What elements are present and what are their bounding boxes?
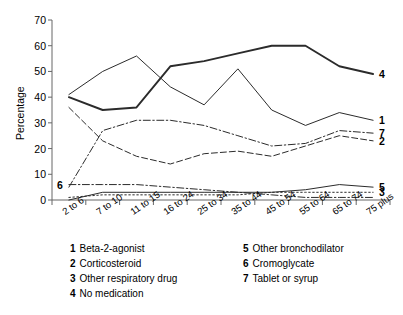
y-tick-label: 40: [24, 92, 46, 102]
series-end-label-7: 7: [379, 127, 385, 139]
legend-item: 4No medication: [70, 288, 177, 303]
line-chart: Percentage 010203040506070 2 to 67 to 10…: [0, 0, 403, 315]
y-tick-label: 50: [24, 66, 46, 76]
legend-item-number: 3: [70, 273, 76, 284]
y-tick-label: 20: [24, 144, 46, 154]
y-axis-ticks: 010203040506070: [22, 0, 46, 215]
legend-item-number: 5: [243, 243, 249, 254]
series-line-4: [69, 46, 373, 110]
legend-item: 3Other respiratory drug: [70, 273, 177, 288]
y-tick-label: 60: [24, 41, 46, 51]
y-tick-label: 30: [24, 118, 46, 128]
legend-item-label: Cromoglycate: [253, 258, 315, 269]
series-inline-label-6: 6: [57, 179, 63, 191]
legend-item-number: 7: [243, 273, 249, 284]
y-tick-marks: [48, 20, 52, 200]
legend-item-number: 1: [70, 243, 76, 254]
legend-item-label: Beta-2-agonist: [80, 243, 145, 254]
series-end-label-4: 4: [379, 68, 385, 80]
series-line-7: [69, 120, 373, 187]
series-line-1: [69, 56, 373, 125]
legend-item-label: No medication: [80, 288, 144, 299]
series-end-label-5: 5: [379, 181, 385, 193]
legend: 1Beta-2-agonist2Corticosteroid3Other res…: [0, 243, 403, 315]
legend-item-number: 6: [243, 258, 249, 269]
legend-column: 5Other bronchodilator6Cromoglycate7Table…: [243, 243, 344, 288]
legend-item-label: Other bronchodilator: [253, 243, 344, 254]
y-tick-label: 70: [24, 15, 46, 25]
series-end-label-1: 1: [379, 114, 385, 126]
legend-item: 1Beta-2-agonist: [70, 243, 177, 258]
y-tick-label: 10: [24, 169, 46, 179]
legend-item-label: Tablet or syrup: [253, 273, 319, 284]
y-tick-label: 0: [24, 195, 46, 205]
data-series-group: [69, 46, 373, 200]
legend-item: 7Tablet or syrup: [243, 273, 344, 288]
legend-item-label: Corticosteroid: [80, 258, 142, 269]
series-line-2: [69, 107, 373, 164]
legend-item: 5Other bronchodilator: [243, 243, 344, 258]
legend-item: 2Corticosteroid: [70, 258, 177, 273]
legend-item-number: 2: [70, 258, 76, 269]
legend-item: 6Cromoglycate: [243, 258, 344, 273]
legend-item-label: Other respiratory drug: [80, 273, 178, 284]
legend-column: 1Beta-2-agonist2Corticosteroid3Other res…: [70, 243, 177, 303]
legend-item-number: 4: [70, 288, 76, 299]
